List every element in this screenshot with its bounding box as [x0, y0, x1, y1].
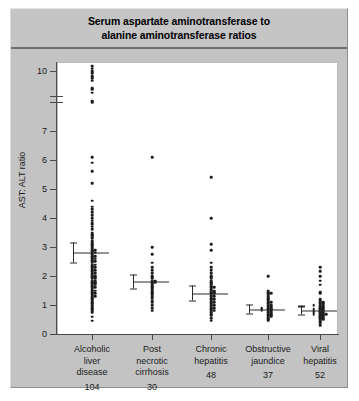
data-point	[267, 293, 270, 296]
data-point	[312, 313, 315, 316]
sample-size: 30	[117, 382, 187, 394]
mean-error-bar	[73, 252, 113, 253]
data-point	[210, 217, 213, 220]
data-point	[319, 266, 322, 269]
data-point	[319, 279, 322, 282]
data-point	[210, 269, 213, 272]
data-point	[210, 266, 213, 269]
axis-break-mark-2	[50, 102, 63, 103]
figure-title-bar: Serum aspartate aminotransferase to alan…	[11, 9, 347, 49]
mean-line	[192, 293, 228, 294]
y-tick-6	[50, 160, 56, 161]
data-point	[94, 295, 97, 298]
data-point	[91, 199, 94, 202]
error-bar-cap-top	[246, 305, 253, 306]
data-point	[213, 304, 216, 307]
mean-error-bar	[133, 281, 173, 282]
error-bar-cap-bottom	[70, 262, 77, 263]
data-point	[91, 315, 94, 318]
sample-size: 52	[285, 370, 355, 382]
y-tick-label-4: 4	[23, 213, 47, 223]
data-point	[91, 72, 94, 75]
data-point	[151, 299, 154, 302]
data-point	[267, 319, 270, 322]
y-tick-1	[50, 305, 56, 306]
data-point	[94, 272, 97, 275]
error-bar-cap-bottom	[298, 315, 305, 316]
data-point	[94, 269, 97, 272]
y-tick-label-5: 5	[23, 184, 47, 194]
title-line-1: Serum aspartate aminotransferase to	[88, 15, 270, 27]
data-point	[151, 304, 154, 307]
x-tick-4	[320, 335, 321, 340]
data-point	[210, 314, 213, 317]
data-point	[319, 292, 322, 295]
mean-line	[133, 282, 169, 283]
mean-error-bar	[192, 293, 232, 294]
x-label-line: hepatitis	[285, 356, 355, 368]
data-point	[270, 301, 273, 304]
y-tick-4	[50, 218, 56, 219]
y-tick-5	[50, 189, 56, 190]
data-point	[210, 261, 213, 264]
data-point	[91, 221, 94, 224]
mean-error-bar	[249, 309, 289, 310]
error-bar-cap-top	[70, 242, 77, 243]
error-bar-cap-top	[130, 274, 137, 275]
error-bar-cap-top	[298, 306, 305, 307]
data-point	[210, 319, 213, 322]
mean-line	[73, 253, 109, 254]
data-point	[210, 176, 213, 179]
data-point	[267, 275, 270, 278]
data-point	[213, 301, 216, 304]
data-point	[91, 88, 94, 91]
data-point	[213, 309, 216, 312]
data-point	[312, 304, 315, 307]
x-axis-line	[56, 334, 339, 335]
data-point	[94, 266, 97, 269]
y-tick-2	[50, 276, 56, 277]
data-point	[151, 253, 154, 256]
data-point	[210, 243, 213, 246]
data-point	[91, 170, 94, 173]
data-point	[151, 266, 154, 269]
data-point	[91, 319, 94, 322]
error-bar-cap-bottom	[189, 300, 196, 301]
data-point	[91, 91, 94, 94]
data-point	[91, 211, 94, 214]
data-point	[270, 315, 273, 318]
data-point	[94, 292, 97, 295]
mean-line	[301, 311, 337, 312]
data-point	[151, 269, 154, 272]
data-point	[151, 309, 154, 312]
y-tick-label-6: 6	[23, 155, 47, 165]
data-point	[91, 79, 94, 82]
data-point	[151, 246, 154, 249]
data-point	[94, 286, 97, 289]
y-tick-7	[50, 131, 56, 132]
figure-root: Serum aspartate aminotransferase to alan…	[0, 0, 359, 401]
mean-line	[249, 309, 285, 310]
data-point	[91, 161, 94, 164]
data-point	[210, 249, 213, 252]
data-point	[319, 275, 322, 278]
data-point	[91, 235, 94, 238]
data-point	[270, 292, 273, 295]
data-point	[213, 298, 216, 301]
x-label-line: Viral	[285, 344, 355, 356]
error-bar-cap-top	[189, 286, 196, 287]
data-point	[91, 100, 94, 103]
y-tick-label-2: 2	[23, 271, 47, 281]
data-point	[213, 295, 216, 298]
data-point	[91, 228, 94, 231]
error-bar-cap-bottom	[130, 289, 137, 290]
axis-break-mark-1	[50, 96, 63, 97]
y-tick-label-10: 10	[23, 66, 47, 76]
data-point	[322, 318, 325, 321]
data-point	[210, 272, 213, 275]
data-point	[151, 261, 154, 264]
data-point	[151, 293, 154, 296]
y-tick-3	[50, 247, 56, 248]
data-point	[325, 313, 328, 316]
data-point	[319, 270, 322, 273]
